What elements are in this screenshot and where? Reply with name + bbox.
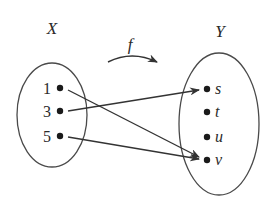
element-5: 5 (43, 128, 63, 145)
element-t-label: t (215, 103, 220, 120)
element-u-dot (204, 134, 210, 140)
element-t: t (204, 103, 220, 120)
set-y: Y s t u v (179, 22, 259, 195)
element-v-label: v (215, 151, 223, 168)
element-1: 1 (43, 80, 63, 97)
function-mapping-diagram: X 1 3 5 Y s t u v (0, 0, 269, 209)
element-3-dot (57, 108, 63, 114)
set-x-boundary (17, 63, 87, 167)
element-5-dot (57, 133, 63, 139)
function-arrow-icon (108, 56, 157, 62)
element-v-dot (204, 157, 210, 163)
function-label: f (128, 35, 135, 54)
element-v: v (204, 151, 223, 168)
element-t-dot (204, 109, 210, 115)
set-y-label: Y (215, 22, 226, 41)
element-u-label: u (215, 128, 223, 145)
set-x-label: X (46, 19, 58, 38)
element-1-dot (57, 85, 63, 91)
element-5-label: 5 (43, 128, 51, 145)
set-y-boundary (179, 53, 259, 195)
element-s-label: s (215, 80, 221, 97)
element-s-dot (204, 86, 210, 92)
element-3-label: 3 (43, 103, 51, 120)
element-3: 3 (43, 103, 63, 120)
element-1-label: 1 (43, 80, 51, 97)
element-u: u (204, 128, 223, 145)
function-indicator: f (108, 35, 157, 62)
set-x: X 1 3 5 (17, 19, 87, 167)
element-s: s (204, 80, 221, 97)
